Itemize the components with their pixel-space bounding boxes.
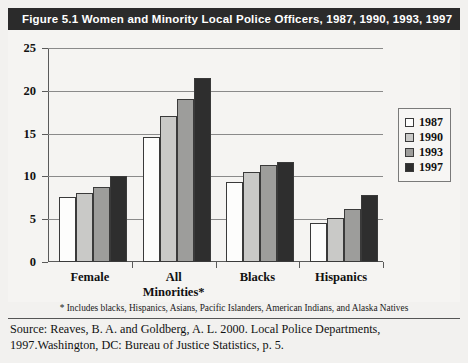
bar-1987 — [59, 197, 76, 262]
bar-group — [226, 48, 294, 262]
y-axis-tick-label: 10 — [24, 169, 37, 184]
y-tick-10 — [42, 176, 48, 177]
bar-1987 — [310, 223, 327, 262]
legend-label: 1993 — [419, 145, 443, 160]
legend-swatch-icon — [405, 148, 414, 157]
x-axis-label: Blacks — [216, 270, 300, 285]
legend-swatch-icon — [405, 133, 414, 142]
bar-1987 — [143, 137, 160, 262]
bar-1990 — [327, 218, 344, 263]
x-tick — [383, 262, 384, 268]
source-line-1: Source: Reaves, B. A. and Goldberg, A. L… — [10, 322, 380, 336]
bar-1997 — [277, 162, 294, 262]
legend-label: 1997 — [419, 160, 443, 175]
bar-group — [59, 48, 127, 262]
bar-1987 — [226, 182, 243, 262]
figure-container: Figure 5.1 Women and Minority Local Poli… — [0, 0, 468, 363]
x-tick — [132, 262, 133, 268]
bar-1997 — [361, 195, 378, 262]
divider — [8, 318, 460, 319]
y-tick-20 — [42, 91, 48, 92]
bar-1993 — [93, 187, 110, 262]
y-axis-tick-label: 5 — [30, 212, 36, 227]
bar-1993 — [260, 165, 277, 262]
chart-area: 0510152025 FemaleAllMinorities*BlacksHis… — [8, 30, 460, 302]
bar-1990 — [243, 172, 260, 262]
x-axis-label: Hispanics — [299, 270, 383, 285]
legend-label: 1990 — [419, 130, 443, 145]
legend-swatch-icon — [405, 163, 414, 172]
y-axis-tick-label: 15 — [24, 126, 37, 141]
figure-footnote: * Includes blacks, Hispanics, Asians, Pa… — [8, 303, 460, 313]
bar-1993 — [344, 209, 361, 262]
y-tick-0 — [42, 262, 48, 263]
x-tick — [299, 262, 300, 268]
x-axis-label: Female — [48, 270, 132, 285]
bar-1990 — [160, 116, 177, 262]
y-tick-25 — [42, 48, 48, 49]
y-tick-5 — [42, 219, 48, 220]
figure-title-bar: Figure 5.1 Women and Minority Local Poli… — [8, 8, 460, 30]
legend-item-1997: 1997 — [405, 160, 443, 175]
bar-1993 — [177, 99, 194, 262]
x-tick — [216, 262, 217, 268]
y-axis-tick-label: 0 — [30, 255, 36, 270]
source-line-2: 1997.Washington, DC: Bureau of Justice S… — [10, 338, 460, 354]
bar-1997 — [194, 78, 211, 262]
figure-source: Source: Reaves, B. A. and Goldberg, A. L… — [10, 322, 460, 353]
bar-group — [143, 48, 211, 262]
y-axis-tick-label: 25 — [24, 41, 37, 56]
legend-item-1987: 1987 — [405, 115, 443, 130]
page-title: Figure 5.1 Women and Minority Local Poli… — [22, 13, 452, 25]
bar-1997 — [110, 176, 127, 262]
legend-swatch-icon — [405, 118, 414, 127]
bar-group — [310, 48, 378, 262]
chart-legend: 1987199019931997 — [398, 108, 451, 182]
x-axis-label: AllMinorities* — [132, 270, 216, 300]
legend-item-1990: 1990 — [405, 130, 443, 145]
legend-label: 1987 — [419, 115, 443, 130]
legend-item-1993: 1993 — [405, 145, 443, 160]
y-tick-15 — [42, 134, 48, 135]
bar-1990 — [76, 193, 93, 262]
y-axis-tick-label: 20 — [24, 83, 37, 98]
